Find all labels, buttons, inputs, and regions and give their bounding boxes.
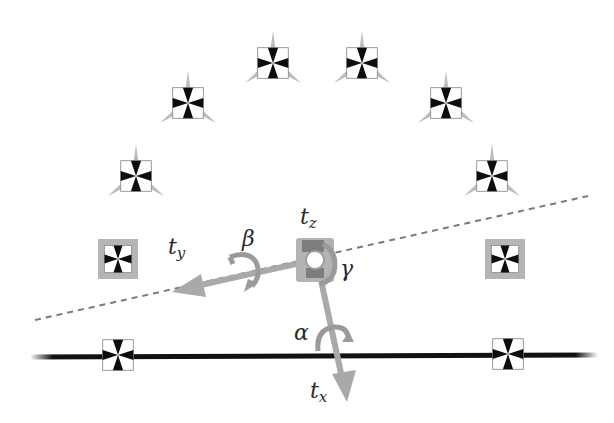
alpha-label: α [294,322,309,344]
fiducial-marker-icon [245,31,301,83]
ty-arrow-icon [172,262,305,297]
fiducial-marker-icon [418,71,474,123]
gamma-label: γ [340,258,353,280]
fiducial-marker-icon [108,144,164,196]
fiducial-marker-icon [98,239,138,279]
fiducial-marker-icon [103,340,134,371]
tx-label: tx [310,380,327,405]
ty-label: ty [168,236,185,261]
fiducial-marker-icon [160,71,216,123]
marker-group [98,31,525,370]
fiducial-marker-icon [485,239,525,279]
fiducial-marker-icon [464,144,520,196]
pose-diagram: tz ty tx β γ α [0,0,614,423]
tz-label: tz [300,206,317,231]
fiducial-marker-icon [334,31,390,83]
center-object-icon [296,238,335,284]
beta-label: β [242,228,255,250]
fiducial-marker-icon [493,339,524,370]
